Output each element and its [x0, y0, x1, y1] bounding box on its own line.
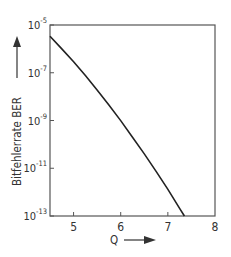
- ber-curve: [50, 36, 184, 216]
- y-tick-label: 10-13: [23, 207, 47, 223]
- x-tick-label: 7: [164, 220, 171, 234]
- plot-frame: [50, 25, 215, 216]
- x-axis-ticks: 5678: [70, 212, 218, 234]
- x-tick-label: 5: [70, 220, 77, 234]
- y-tick-label: 10-9: [28, 112, 47, 128]
- y-axis-label: Bitfehlerrate BER: [10, 97, 24, 186]
- y-tick-label: 10-5: [28, 16, 47, 32]
- x-axis-title: Q: [110, 233, 118, 247]
- x-tick-label: 8: [212, 220, 219, 234]
- y-tick-label: 10-7: [28, 64, 47, 80]
- y-axis-arrow-icon: [13, 36, 21, 78]
- x-axis-arrow-icon: [124, 236, 156, 244]
- x-tick-label: 6: [117, 220, 124, 234]
- y-axis-title: Bitfehlerrate BER: [10, 97, 24, 186]
- ber-chart: 10-510-710-910-1110-13 5678 Bitfehlerrat…: [0, 0, 231, 257]
- y-tick-label: 10-11: [23, 159, 47, 175]
